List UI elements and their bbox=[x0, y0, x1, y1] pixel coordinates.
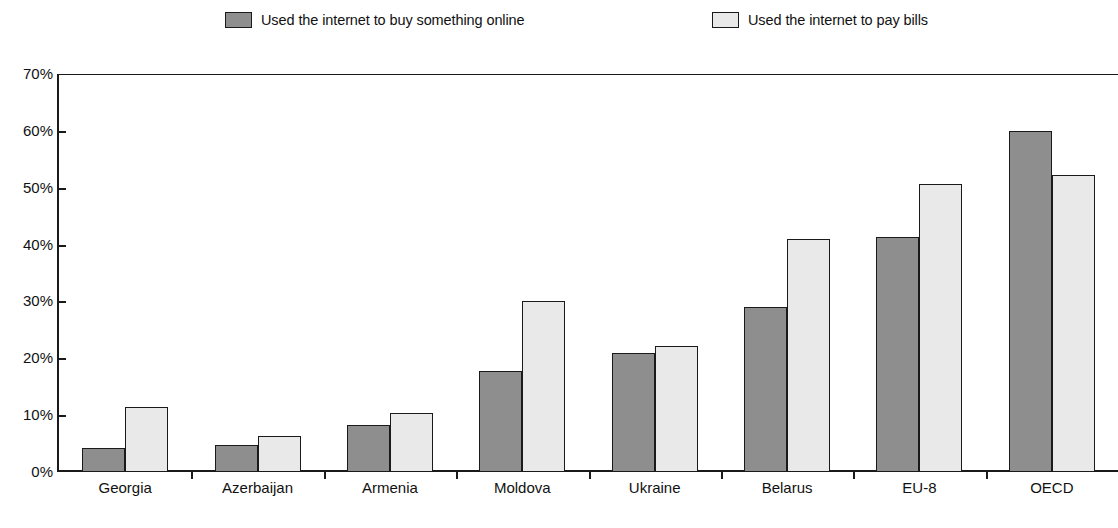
x-axis-label-moldova: Moldova bbox=[456, 480, 588, 495]
x-axis-label-eu-8: EU-8 bbox=[853, 480, 985, 495]
x-axis-labels: GeorgiaAzerbaijanArmeniaMoldovaUkraineBe… bbox=[59, 480, 1118, 510]
x-axis-separator bbox=[721, 472, 723, 479]
x-axis-label-azerbaijan: Azerbaijan bbox=[191, 480, 323, 495]
x-axis-label-armenia: Armenia bbox=[324, 480, 456, 495]
x-axis-separator bbox=[456, 472, 458, 479]
x-axis-label-georgia: Georgia bbox=[59, 480, 191, 495]
x-axis-separators bbox=[0, 0, 1118, 528]
x-axis-label-ukraine: Ukraine bbox=[589, 480, 721, 495]
x-axis-separator bbox=[191, 472, 193, 479]
x-axis-separator bbox=[324, 472, 326, 479]
x-axis-separator bbox=[986, 472, 988, 479]
x-axis-label-belarus: Belarus bbox=[721, 480, 853, 495]
x-axis-label-oecd: OECD bbox=[986, 480, 1118, 495]
bar-chart: 70%60%50%40%30%20%10%0% GeorgiaAzerbaija… bbox=[0, 0, 1118, 528]
x-axis-separator bbox=[853, 472, 855, 479]
x-axis-separator bbox=[589, 472, 591, 479]
